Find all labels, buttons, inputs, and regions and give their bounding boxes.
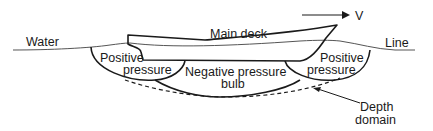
label-velocity: V [355,9,364,23]
label-water: Water [26,35,59,49]
label-negative-2: bulb [221,77,245,91]
label-depth-2: domain [355,113,396,127]
velocity-arrowhead-icon [342,11,350,19]
label-line: Line [385,36,409,50]
water-line-under-hull [130,40,340,46]
label-positive-right-2: pressure [307,63,356,77]
ship-pressure-diagram: Water Line Main deck V Positive pressure… [0,0,433,131]
label-main-deck: Main deck [210,27,268,41]
depth-domain-arrowhead [313,87,321,92]
label-positive-left-2: pressure [123,63,172,77]
depth-domain-pointer [318,89,360,103]
label-depth-1: Depth [360,100,393,114]
